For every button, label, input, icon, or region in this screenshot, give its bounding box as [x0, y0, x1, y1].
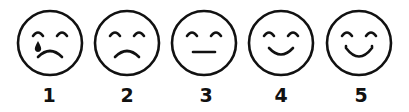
face-outline — [172, 11, 236, 75]
frown-mouth — [115, 51, 139, 57]
face-outline — [327, 11, 391, 75]
rating-label-2: 2 — [112, 84, 142, 106]
tear-drop — [35, 41, 41, 52]
smile-mouth — [269, 48, 293, 55]
crying-face-icon[interactable] — [18, 11, 82, 75]
slightly-smiling-face-icon[interactable] — [249, 11, 313, 75]
face-outline — [249, 11, 313, 75]
sad-face-icon[interactable] — [95, 11, 159, 75]
left-eye — [187, 33, 197, 37]
right-eye — [211, 33, 221, 37]
frown-mouth — [38, 51, 62, 57]
face-rating-scale: 1 2 3 4 5 — [0, 0, 409, 112]
rating-label-3: 3 — [191, 84, 221, 106]
left-eye — [110, 33, 120, 37]
right-eye — [57, 33, 67, 37]
big-smile-mouth — [346, 46, 372, 57]
neutral-face-icon[interactable] — [172, 11, 236, 75]
right-eye — [366, 33, 376, 37]
face-outline — [95, 11, 159, 75]
left-eye — [264, 33, 274, 37]
rating-label-1: 1 — [34, 84, 64, 106]
left-eye — [33, 33, 43, 37]
right-eye — [288, 33, 298, 37]
right-eye — [134, 33, 144, 37]
smiling-face-icon[interactable] — [327, 11, 391, 75]
face-outline — [18, 11, 82, 75]
rating-label-5: 5 — [346, 84, 376, 106]
rating-label-4: 4 — [266, 84, 296, 106]
left-eye — [342, 33, 352, 37]
